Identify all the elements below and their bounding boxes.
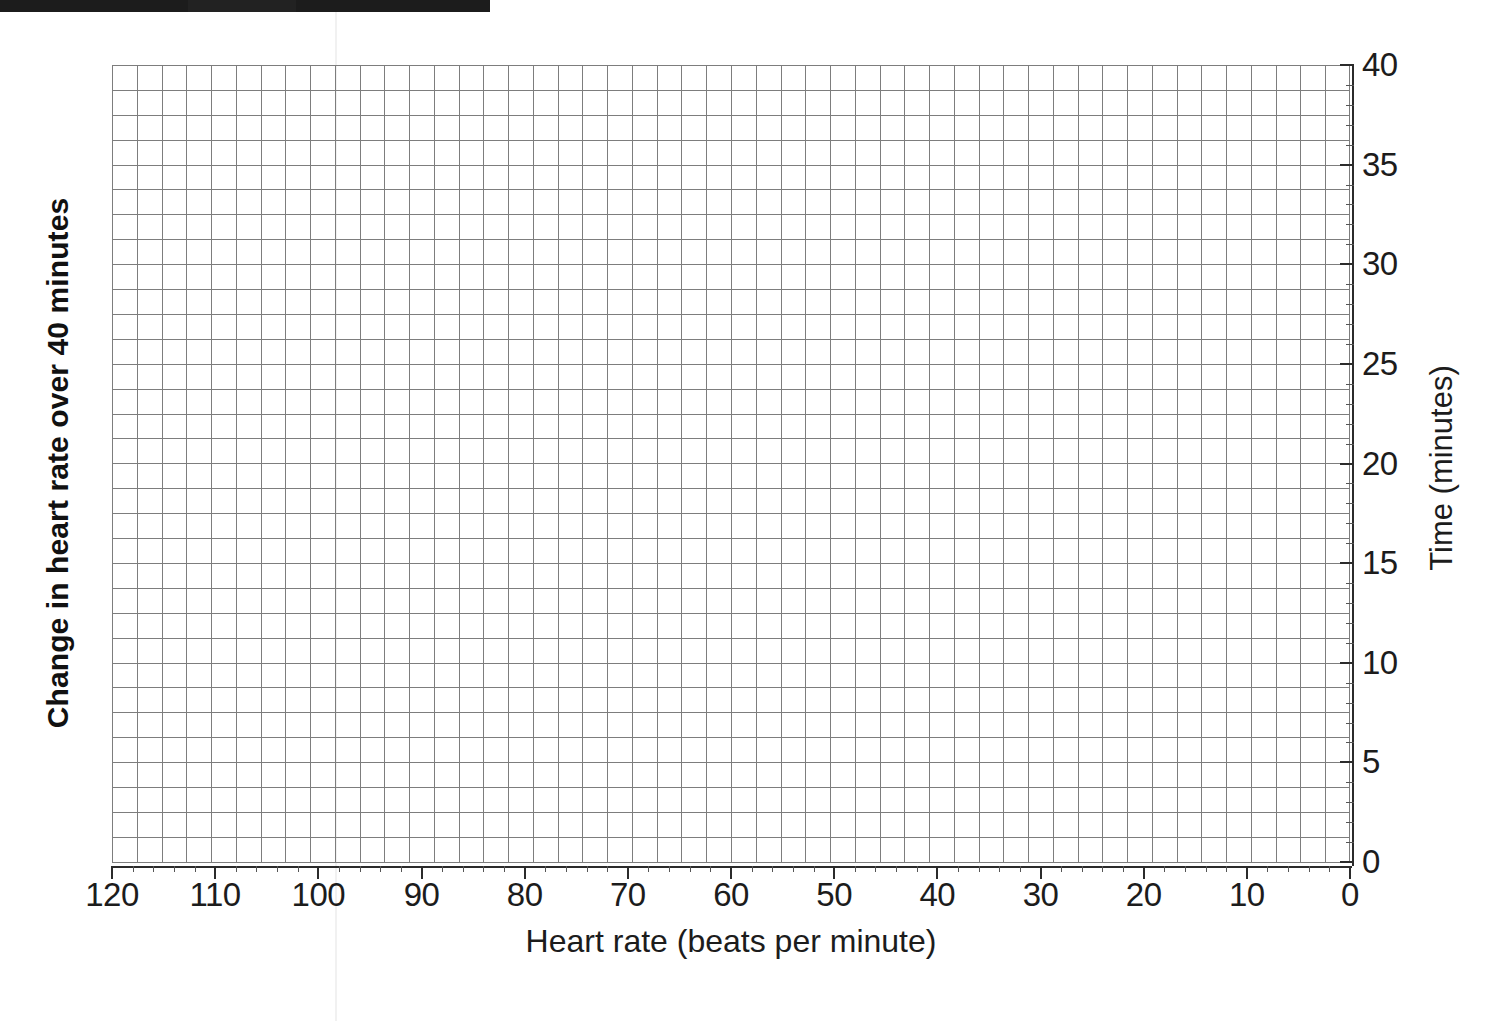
y-tick-minor xyxy=(1346,145,1354,146)
y-tick-major xyxy=(1340,463,1354,465)
y-tick-minor xyxy=(1346,224,1354,225)
x-tick-label: 120 xyxy=(85,876,139,914)
y-tick-minor xyxy=(1346,444,1354,445)
x-tick-minor xyxy=(710,866,711,872)
x-tick-label: 60 xyxy=(713,876,749,914)
y-tick-minor xyxy=(1346,583,1354,584)
y-tick-label: 0 xyxy=(1362,843,1380,881)
x-tick-minor xyxy=(483,866,484,872)
y-tick-minor xyxy=(1346,404,1354,405)
x-tick-minor xyxy=(1123,866,1124,872)
x-tick-minor xyxy=(133,866,134,872)
y-tick-label: 30 xyxy=(1362,245,1398,283)
y-tick-minor xyxy=(1346,424,1354,425)
x-tick-minor xyxy=(195,866,196,872)
y-tick-minor xyxy=(1346,244,1354,245)
y-tick-minor xyxy=(1346,683,1354,684)
x-tick-minor xyxy=(339,866,340,872)
x-tick-minor xyxy=(277,866,278,872)
x-tick-minor xyxy=(380,866,381,872)
x-tick-minor xyxy=(607,866,608,872)
y-tick-minor xyxy=(1346,284,1354,285)
y-tick-minor xyxy=(1346,703,1354,704)
y-axis-line xyxy=(1352,66,1354,866)
y-tick-minor xyxy=(1346,204,1354,205)
x-tick-minor xyxy=(979,866,980,872)
x-tick-minor xyxy=(298,866,299,872)
y-tick-major xyxy=(1340,562,1354,564)
header-band-inner-block xyxy=(188,0,296,12)
x-tick-minor xyxy=(875,866,876,872)
y-tick-minor xyxy=(1346,503,1354,504)
y-tick-major xyxy=(1340,861,1354,863)
y-tick-minor xyxy=(1346,304,1354,305)
x-tick-label: 50 xyxy=(816,876,852,914)
x-tick-minor xyxy=(256,866,257,872)
y-tick-minor xyxy=(1346,523,1354,524)
x-tick-minor xyxy=(1329,866,1330,872)
x-tick-minor xyxy=(896,866,897,872)
x-tick-minor xyxy=(1206,866,1207,872)
x-tick-minor xyxy=(1164,866,1165,872)
x-tick-minor xyxy=(442,866,443,872)
x-tick-label: 100 xyxy=(292,876,346,914)
y-tick-major xyxy=(1340,662,1354,664)
page-header-band xyxy=(0,0,490,12)
x-tick-label: 40 xyxy=(919,876,955,914)
x-tick-minor xyxy=(504,866,505,872)
x-tick-minor xyxy=(669,866,670,872)
x-axis-title: Heart rate (beats per minute) xyxy=(526,923,937,960)
x-tick-minor xyxy=(1061,866,1062,872)
x-tick-minor xyxy=(1309,866,1310,872)
y-tick-minor xyxy=(1346,782,1354,783)
x-tick-minor xyxy=(958,866,959,872)
x-tick-minor xyxy=(587,866,588,872)
x-tick-label: 70 xyxy=(610,876,646,914)
y-tick-minor xyxy=(1346,603,1354,604)
x-tick-label: 90 xyxy=(404,876,440,914)
x-tick-minor xyxy=(917,866,918,872)
x-tick-minor xyxy=(999,866,1000,872)
y-tick-major xyxy=(1340,263,1354,265)
y-tick-minor xyxy=(1346,185,1354,186)
right-axis-title: Time (minutes) xyxy=(1424,365,1460,571)
x-tick-label: 80 xyxy=(507,876,543,914)
y-tick-label: 15 xyxy=(1362,544,1398,582)
y-tick-minor xyxy=(1346,842,1354,843)
y-tick-minor xyxy=(1346,85,1354,86)
y-tick-major xyxy=(1340,64,1354,66)
y-tick-minor xyxy=(1346,105,1354,106)
x-tick-minor xyxy=(463,866,464,872)
x-tick-minor xyxy=(401,866,402,872)
x-tick-label: 20 xyxy=(1126,876,1162,914)
x-tick-minor xyxy=(772,866,773,872)
left-axis-title: Change in heart rate over 40 minutes xyxy=(41,198,75,728)
x-tick-minor xyxy=(855,866,856,872)
x-tick-minor xyxy=(1020,866,1021,872)
y-tick-label: 10 xyxy=(1362,644,1398,682)
graph-grid-area xyxy=(112,65,1350,862)
y-tick-minor xyxy=(1346,643,1354,644)
x-tick-minor xyxy=(793,866,794,872)
y-tick-minor xyxy=(1346,125,1354,126)
x-tick-minor xyxy=(1185,866,1186,872)
x-tick-minor xyxy=(545,866,546,872)
y-tick-label: 35 xyxy=(1362,146,1398,184)
x-tick-label: 110 xyxy=(190,876,241,914)
y-tick-label: 25 xyxy=(1362,345,1398,383)
x-tick-minor xyxy=(174,866,175,872)
x-tick-minor xyxy=(814,866,815,872)
y-tick-minor xyxy=(1346,802,1354,803)
x-tick-label: 30 xyxy=(1023,876,1059,914)
y-tick-minor xyxy=(1346,543,1354,544)
y-tick-label: 5 xyxy=(1362,743,1380,781)
y-tick-major xyxy=(1340,363,1354,365)
x-tick-minor xyxy=(648,866,649,872)
x-tick-minor xyxy=(360,866,361,872)
x-tick-minor xyxy=(1267,866,1268,872)
x-tick-label: 0 xyxy=(1341,876,1359,914)
y-tick-label: 40 xyxy=(1362,46,1398,84)
x-tick-label: 10 xyxy=(1229,876,1265,914)
y-tick-minor xyxy=(1346,822,1354,823)
x-tick-minor xyxy=(1102,866,1103,872)
